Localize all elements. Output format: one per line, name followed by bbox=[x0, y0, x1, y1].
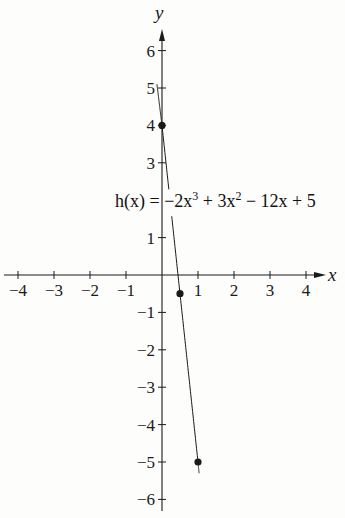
function-equation-label: h(x) = −2x3 + 3x2 − 12x + 5 bbox=[115, 189, 316, 212]
y-tick-label: −1 bbox=[137, 303, 155, 322]
y-tick-label: 5 bbox=[147, 79, 156, 98]
x-tick-label: −3 bbox=[45, 281, 63, 300]
function-graph: −4−3−2−1123465431−1−2−3−4−5−6 x y h(x) =… bbox=[0, 0, 345, 518]
axes bbox=[4, 29, 326, 511]
x-tick-label: 2 bbox=[230, 281, 239, 300]
y-axis-label: y bbox=[153, 2, 164, 23]
x-tick-label: −2 bbox=[81, 281, 99, 300]
curve-segment bbox=[172, 216, 199, 473]
x-tick-label: −4 bbox=[9, 281, 28, 300]
x-tick-label: 4 bbox=[302, 281, 311, 300]
y-tick-label: 4 bbox=[147, 116, 156, 135]
x-tick-label: 3 bbox=[266, 281, 275, 300]
x-tick-label: −1 bbox=[117, 281, 135, 300]
y-tick-label: −2 bbox=[137, 341, 155, 360]
curve-segment bbox=[157, 84, 169, 189]
x-axis-label: x bbox=[327, 264, 337, 285]
point-marker bbox=[194, 458, 201, 465]
x-tick-label: 1 bbox=[194, 281, 203, 300]
y-tick-label: 3 bbox=[147, 154, 156, 173]
curve-h bbox=[157, 84, 199, 473]
x-axis-arrow-icon bbox=[314, 272, 326, 278]
point-marker bbox=[158, 122, 165, 129]
y-tick-label: −4 bbox=[137, 416, 156, 435]
y-tick-label: 1 bbox=[147, 229, 156, 248]
y-axis-arrow-icon bbox=[159, 29, 165, 41]
y-tick-label: 6 bbox=[147, 42, 156, 61]
y-tick-label: −5 bbox=[137, 453, 155, 472]
point-marker bbox=[176, 290, 183, 297]
y-tick-label: −6 bbox=[137, 490, 155, 509]
y-tick-label: −3 bbox=[137, 378, 155, 397]
